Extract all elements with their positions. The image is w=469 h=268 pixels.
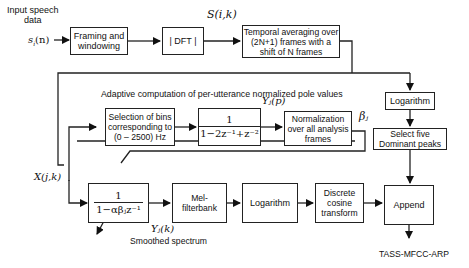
append-block: Append xyxy=(384,185,434,225)
mel-filterbank-block: Mel-filterbank xyxy=(172,183,227,223)
smoothing-filter-equation: 1 1−αβⱼz⁻¹ xyxy=(94,190,142,216)
input-label: Input speech data xyxy=(7,5,59,25)
logarithm-right-block: Logarithm xyxy=(385,92,435,110)
smoothed-spectrum-label: Smoothed spectrum xyxy=(130,236,207,246)
signal-beta-j: βⱼ xyxy=(359,112,368,122)
smoothing-filter-block: 1 1−αβⱼz⁻¹ xyxy=(88,183,149,223)
pole-filter-equation: 1 1−2z⁻¹+z⁻² xyxy=(198,114,261,140)
input-signal-label: si(n) xyxy=(28,35,49,49)
normalization-block: Normalization over all analysis frames xyxy=(284,111,352,146)
signal-y-jp: Yⱼ(p) xyxy=(262,96,285,106)
signal-s-ik: S(i,k) xyxy=(207,10,237,20)
dct-block: Discrete cosine transform xyxy=(315,183,364,223)
adaptive-region-title: Adaptive computation of per-utterance no… xyxy=(101,89,343,99)
dft-block: | DFT | xyxy=(162,27,204,55)
selection-of-bins-block: Selection of bins corresponding to (0 – … xyxy=(105,108,175,146)
logarithm-bottom-block: Logarithm xyxy=(242,183,298,223)
signal-x-jk: X(j,k) xyxy=(34,172,61,182)
framing-windowing-block: Framing and windowing xyxy=(70,27,128,55)
signal-y-jk: Yⱼ(k) xyxy=(151,224,174,234)
pole-filter-block: 1 1−2z⁻¹+z⁻² xyxy=(198,108,261,146)
temporal-averaging-block: Temporal averaging over (2N+1) frames wi… xyxy=(242,25,340,58)
output-label: TASS-MFCC-ARP xyxy=(379,249,449,259)
select-dominant-peaks-block: Select five Dominant peaks xyxy=(373,128,447,150)
